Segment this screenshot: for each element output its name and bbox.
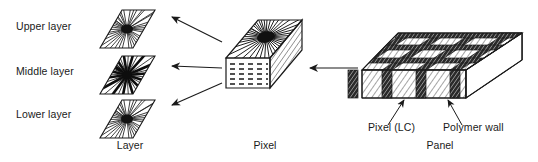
- panel-slab: [348, 33, 522, 98]
- layer-middle-rhombus: [89, 44, 165, 105]
- arrow-to-lower-layer: [172, 83, 222, 105]
- annotation-polymer-wall: Polymer wall: [443, 121, 504, 133]
- section-caption-panel: Panel: [410, 139, 470, 151]
- section-caption-pixel: Pixel: [235, 139, 295, 151]
- section-caption-layer: Layer: [100, 139, 160, 151]
- explode-arrows: [172, 17, 222, 105]
- lcd-structure-figure: Upper layer Middle layer Lower layer Lay…: [0, 0, 538, 162]
- annotation-pixel-lc: Pixel (LC): [368, 121, 415, 133]
- pixel-cube: [214, 0, 315, 90]
- layer-label-upper: Upper layer: [16, 20, 71, 32]
- figure-artwork: [0, 0, 538, 162]
- arrow-to-middle-layer: [172, 66, 222, 68]
- layer-upper-rhombus: [89, 0, 165, 59]
- layer-label-lower: Lower layer: [16, 108, 71, 120]
- layer-label-middle: Middle layer: [16, 65, 74, 77]
- arrow-to-upper-layer: [172, 17, 222, 42]
